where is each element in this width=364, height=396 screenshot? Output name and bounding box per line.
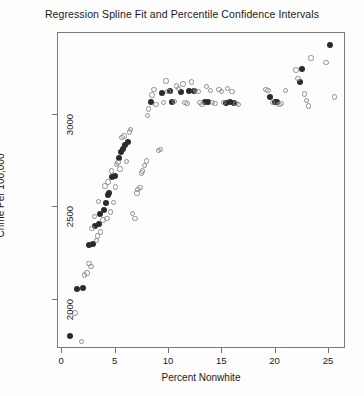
x-tick-mark	[275, 348, 276, 353]
ci-point	[306, 103, 312, 109]
x-tick-mark	[61, 348, 62, 353]
fit-point	[80, 285, 86, 291]
ci-point	[144, 158, 150, 164]
x-tick-label: 5	[112, 355, 117, 366]
ci-point	[195, 89, 201, 95]
ci-point	[132, 216, 138, 222]
ci-point	[295, 76, 301, 82]
x-tick-label: 20	[269, 355, 280, 366]
ci-point	[113, 184, 119, 190]
chart-title: Regression Spline Fit and Percentile Con…	[0, 8, 364, 20]
ci-point	[199, 102, 205, 108]
ci-point	[180, 81, 186, 87]
ci-point	[265, 88, 271, 94]
ci-point	[165, 89, 171, 95]
x-tick-label: 0	[59, 355, 64, 366]
y-tick-label: 2000	[64, 299, 75, 320]
x-tick-label: 10	[163, 355, 174, 366]
fit-point	[299, 66, 305, 72]
ci-point	[151, 87, 157, 93]
ci-point	[128, 127, 134, 133]
y-tick-mark	[52, 114, 57, 115]
ci-point	[111, 200, 117, 206]
ci-point	[88, 264, 94, 270]
ci-point	[308, 55, 314, 61]
ci-point	[184, 101, 190, 107]
ci-point	[124, 159, 130, 165]
x-tick-mark	[168, 348, 169, 353]
ci-point	[98, 229, 104, 235]
ci-point	[293, 67, 299, 73]
ci-point	[208, 88, 214, 94]
fit-point	[103, 200, 109, 206]
ci-point	[212, 101, 218, 107]
ci-point	[229, 89, 235, 95]
ci-point	[121, 133, 127, 139]
y-axis-label: Crime Per 100,000	[0, 154, 6, 238]
y-tick-mark	[52, 206, 57, 207]
ci-point	[79, 339, 85, 345]
ci-point	[115, 160, 121, 166]
ci-point	[332, 94, 338, 100]
ci-point	[189, 79, 195, 85]
ci-point	[278, 101, 284, 107]
ci-point	[108, 209, 114, 215]
ci-point	[104, 216, 110, 222]
ci-point	[109, 168, 115, 174]
y-tick-label: 3000	[64, 114, 75, 135]
fit-point	[101, 207, 107, 213]
y-tick-mark	[52, 299, 57, 300]
x-tick-label: 15	[216, 355, 227, 366]
ci-point	[153, 102, 159, 108]
ci-point	[145, 113, 151, 119]
ci-point	[140, 168, 146, 174]
ci-point	[302, 91, 308, 97]
fit-point	[327, 42, 333, 48]
x-tick-mark	[328, 348, 329, 353]
ci-point	[92, 214, 98, 220]
x-tick-mark	[221, 348, 222, 353]
ci-point	[84, 270, 90, 276]
ci-point	[161, 100, 167, 106]
x-tick-mark	[115, 348, 116, 353]
fit-point	[106, 190, 112, 196]
ci-point	[137, 185, 143, 191]
ci-point	[96, 199, 102, 205]
ci-point	[146, 106, 152, 112]
y-tick-label: 2500	[64, 206, 75, 227]
ci-point	[323, 60, 329, 66]
ci-point	[117, 166, 123, 172]
x-tick-label: 25	[323, 355, 334, 366]
fit-point	[67, 333, 73, 339]
fit-point	[125, 139, 131, 145]
data-points-layer	[57, 32, 345, 348]
ci-point	[89, 226, 95, 232]
ci-point	[105, 179, 111, 185]
ci-point	[236, 102, 242, 108]
ci-point	[163, 78, 169, 84]
ci-point	[149, 92, 155, 98]
fit-point	[159, 90, 165, 96]
ci-point	[158, 147, 164, 153]
ci-point	[172, 99, 178, 105]
regression-spline-scatter-chart: Regression Spline Fit and Percentile Con…	[0, 0, 364, 396]
ci-point	[219, 89, 225, 95]
ci-point	[283, 88, 289, 94]
x-axis-label: Percent Nonwhite	[57, 372, 345, 383]
